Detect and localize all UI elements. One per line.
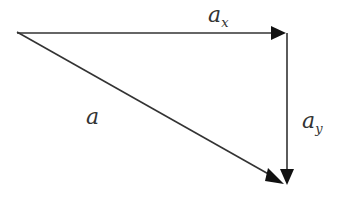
ax-arrowhead-icon [271,26,286,40]
a-line [17,32,272,176]
vector-diagram: ax a ay [0,0,338,198]
label-ax: ax [208,2,229,30]
label-ay: ay [302,108,323,136]
vector-ax [17,26,286,40]
vector-ay [280,33,294,185]
vector-a [17,32,284,184]
label-a: a [86,104,99,129]
